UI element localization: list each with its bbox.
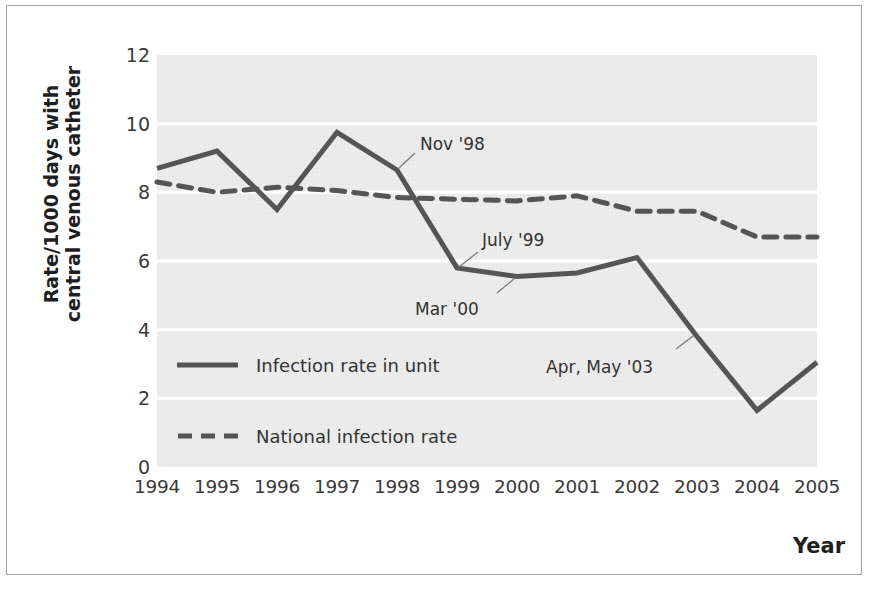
x-tick-label: 1994 [134, 476, 180, 497]
annotation-label: Mar '00 [415, 299, 479, 319]
annotation-label: July '99 [481, 230, 544, 250]
legend-label: National infection rate [256, 426, 457, 447]
annotation-label: Apr, May '03 [546, 357, 653, 377]
y-tick-label: 10 [126, 113, 150, 135]
x-tick-label: 2005 [794, 476, 840, 497]
x-tick-label: 1997 [314, 476, 360, 497]
line-chart: 024681012 199419951996199719981999200020… [0, 0, 869, 589]
y-tick-label: 4 [138, 319, 150, 341]
y-axis-ticks: 024681012 [126, 44, 150, 478]
y-tick-label: 2 [138, 387, 150, 409]
x-tick-label: 1999 [434, 476, 480, 497]
x-axis-ticks: 1994199519961997199819992000200120022003… [134, 476, 840, 497]
y-axis-title-line-2: central venous catheter [62, 65, 84, 322]
legend-label: Infection rate in unit [256, 355, 440, 376]
x-tick-label: 1995 [194, 476, 240, 497]
x-tick-label: 2001 [554, 476, 600, 497]
annotation-label: Nov '98 [420, 134, 485, 154]
x-tick-label: 2004 [734, 476, 780, 497]
x-tick-label: 2000 [494, 476, 540, 497]
y-axis-title-line-1: Rate/1000 days with [40, 85, 62, 304]
x-tick-label: 1998 [374, 476, 420, 497]
x-axis-title: Year [792, 534, 846, 558]
x-tick-label: 2003 [674, 476, 720, 497]
y-tick-label: 8 [138, 181, 150, 203]
x-tick-label: 2002 [614, 476, 660, 497]
y-tick-label: 12 [126, 44, 150, 66]
x-tick-label: 1996 [254, 476, 300, 497]
y-tick-label: 0 [138, 456, 150, 478]
y-tick-label: 6 [138, 250, 150, 272]
